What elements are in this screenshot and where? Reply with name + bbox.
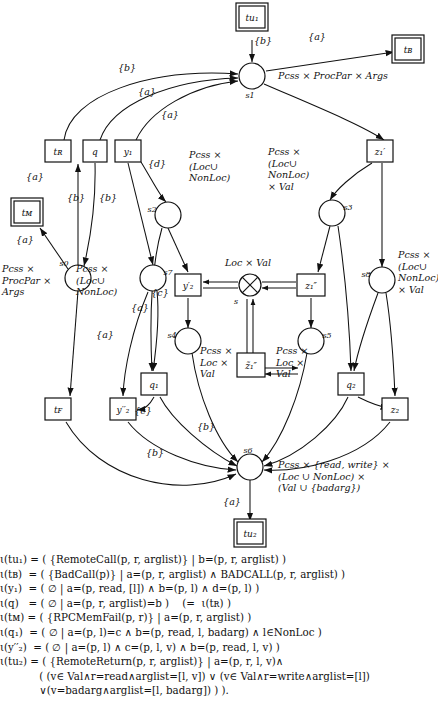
edge-s1-tB [266,52,394,71]
place-s3[interactable]: s3Pcss ×(Loc∪NonLoc)× Val [267,146,353,226]
edge-label: {a} [161,109,179,120]
place-circle[interactable] [369,267,395,293]
edge-label: {a} [138,86,156,97]
edge-label: {b} [118,62,136,73]
transition-tu1[interactable]: tu₁ [236,3,268,31]
place-s4[interactable]: s4Pcss ×Loc ×Val [167,328,232,379]
edge-s0-tF [70,291,78,396]
transition-y2p[interactable]: y′₂ [175,274,201,296]
formula-line: ι(q₁) = ( ∅ | a=(p, l)=c ∧ b=(p, read, l… [0,625,438,640]
edge-s8-q2 [354,293,378,371]
transition-label: tᴍ [22,208,34,218]
edge-label: {a} [131,302,149,313]
place-label: s2 [147,205,156,214]
transition-tR[interactable]: tʀ [45,140,71,162]
place-s6[interactable]: s6Pcss × {read, write} ×(Loc ∪ NonLoc) ×… [237,446,390,493]
edge-s3-q2 [338,226,351,371]
place-type-label: Pcss ×(Loc∪NonLoc) [75,263,117,297]
transition-label: tu₁ [245,13,258,23]
transition-z1ppt[interactable]: z̃₁″ [237,353,265,377]
edge-label: {b} [146,447,164,458]
transition-q1[interactable]: q₁ [141,373,167,395]
edge-s8-z2 [386,293,395,396]
transition-tu2[interactable]: tu₂ [234,519,266,547]
place-s1[interactable]: s1Pcss × ProcPar × Args [239,63,388,100]
transition-label: y₁ [123,147,133,157]
transition-z1p[interactable]: z₁′ [367,140,393,162]
place-label: s6 [243,446,252,455]
place-s8[interactable]: s8Pcss ×(Loc∪NonLoc)× Val [361,249,438,295]
transition-label: z̃₁″ [244,361,257,371]
formula-line: ∨(v=badarg∧arglist=[l, badarg]) ) ). [0,683,438,698]
transition-label: tu₂ [243,529,256,539]
transition-q2[interactable]: q₂ [338,373,364,395]
place-type-label: Pcss × ProcPar × Args [277,70,388,81]
edge-y1-s7 [128,163,153,265]
transition-label: q [92,147,98,157]
transition-q[interactable]: q [83,140,107,162]
transition-y2pp[interactable]: y′′₂ [110,398,136,420]
edge-label: {b} [99,192,117,203]
edge-q-s0 [84,163,95,266]
transition-label: q₂ [346,380,356,390]
edge-label: {a} [26,171,44,182]
edge-label: {a} [308,31,326,42]
transition-z2[interactable]: z₂ [382,398,408,420]
transition-label: q₁ [149,380,158,390]
edge-label: {a} [16,234,34,245]
place-label: s0 [59,259,68,268]
place-circle[interactable] [237,454,263,480]
formula-line: ι(tu₁) = ( {RemoteCall(p, r, arglist)} |… [0,552,438,567]
place-type-label: Pcss ×(Loc∪NonLoc)× Val [267,146,309,192]
formula-line: ι(y′′₂) = ( ∅ | a=(p, l) ∧ c=(p, l, v) ∧… [0,640,438,655]
merge-label: s [234,297,238,306]
place-type-label: Pcss × {read, write} ×(Loc ∪ NonLoc) ×(V… [277,459,390,493]
place-label: s5 [322,331,331,340]
transition-label: y′′₂ [116,405,130,415]
edge-s1-z1p [264,84,384,140]
place-circle[interactable] [155,202,181,228]
place-circle[interactable] [239,63,265,89]
edge-label: {b} [197,421,215,432]
transition-label: z₁′ [374,147,385,157]
place-type-label: Pcss ×Loc ×Val [199,345,232,379]
transition-y1[interactable]: y₁ [115,140,141,162]
transition-label: z₁″ [304,281,317,291]
place-label: s3 [343,203,352,212]
place-circle[interactable] [175,328,201,354]
transition-tM[interactable]: tᴍ [11,198,43,226]
formula-line: ι(tu₂) = ( {RemoteReturn(p, r, arglist)}… [0,654,438,669]
edge-q2-s6 [264,397,348,466]
edge-s2-y2p [168,228,188,272]
formula-line: ι(tᴍ) = ( {RPCMemFail(p, r)} | a=(p, r, … [0,610,438,625]
transition-tB[interactable]: tʙ [392,35,424,63]
edge-s3-z1pp [318,226,330,272]
edge-label: {c} [151,287,168,298]
transition-label: z₂ [390,405,400,415]
transition-label: y′₂ [182,281,194,291]
edge-label: {b} [254,35,272,46]
edge-label: {c} [134,405,151,416]
formula-line: ι(y₁) = ( ∅ | a=(p, read, [l]) ∧ b=(p, l… [0,581,438,596]
edge-label: {b} [67,192,85,203]
edge-label: {a} [223,496,241,507]
transition-tF[interactable]: tꜰ [45,398,71,420]
place-label: s4 [167,331,176,340]
transition-label: tʀ [54,147,63,157]
formula-line: ι(q) = ( ∅ | a=(p, r, arglist)=b ) (= ι(… [0,596,438,611]
edge-y2pp-s6 [128,422,236,470]
place-label: s7 [163,268,173,277]
edge-z1p-s3 [330,163,372,200]
transition-label: tʙ [404,45,413,55]
place-circle[interactable] [319,200,345,226]
place-type-label: Pcss ×(Loc∪NonLoc)× Val [397,249,438,295]
diagram-canvas: s1Pcss × ProcPar × Argss0Pcss ×ProcPar ×… [0,0,438,555]
place-label: s8 [361,270,370,279]
place-label: s1 [245,91,254,100]
edge-s4-s6 [192,353,238,462]
formula-line: ι(tʙ) = ( {BadCall(p)} | a=(p, r, arglis… [0,567,438,582]
transition-z1pp[interactable]: z₁″ [297,274,325,296]
edge-s7-q1 [153,291,158,371]
edge-s2-q1 [151,228,162,371]
formula-line: ( (v∈ Val∧r=read∧arglist=[l, v]) ∨ (v∈ V… [0,669,438,684]
